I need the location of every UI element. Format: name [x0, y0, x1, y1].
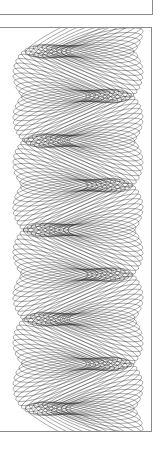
helix-line-art: [0, 28, 152, 432]
figure-frame: [0, 27, 152, 432]
top-frame: [0, 0, 153, 15]
